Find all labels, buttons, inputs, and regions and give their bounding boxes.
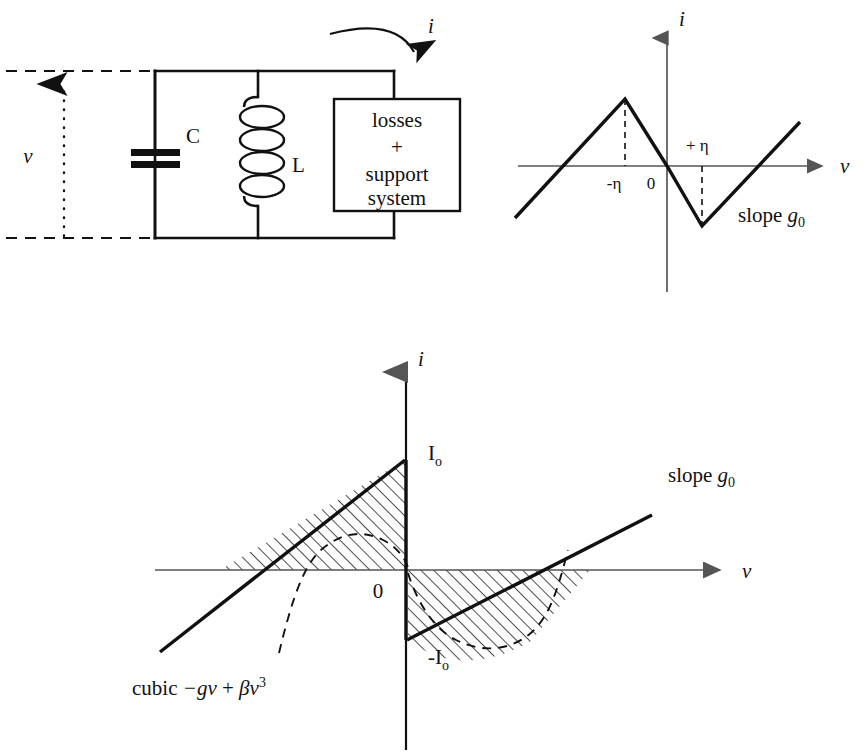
losses-box-line-1: losses xyxy=(372,108,422,132)
capacitor-plate-top xyxy=(131,149,180,156)
losses-box-line-2: + xyxy=(391,135,403,159)
losses-box-line-4: system xyxy=(368,186,426,210)
current-arrow xyxy=(330,28,414,52)
pwl-y-axis-label: i xyxy=(679,7,685,31)
figure-root: v C L losses + support system i xyxy=(0,0,866,755)
inductor-loop-3 xyxy=(240,152,284,174)
pwl-x-axis-label: v xyxy=(840,154,850,178)
cubic-peak-label: Io xyxy=(428,441,442,469)
pwl-origin-label: 0 xyxy=(647,174,656,193)
cubic-expression-exponent: 3 xyxy=(259,675,266,690)
cubic-expression-plus: + xyxy=(222,676,234,700)
inductor-label: L xyxy=(292,153,305,177)
inductor-loop-4 xyxy=(240,175,284,197)
cubic-peak-subscript: o xyxy=(435,454,442,469)
circuit-diagram-panel: v C L losses + support system i xyxy=(0,0,480,300)
cubic-expression-beta: β xyxy=(238,676,250,700)
cubic-expression-term-1: −g xyxy=(183,676,208,700)
losses-box-line-3: support xyxy=(366,162,429,186)
inductor-loop-2 xyxy=(240,129,284,151)
cubic-trough-symbol: -I xyxy=(428,645,442,669)
cubic-slope-word: slope xyxy=(668,463,712,487)
cubic-chart-panel: v i Io -Io 0 slope g0 cubic −gv + βv3 xyxy=(60,350,866,755)
pwl-slope-label: slope g0 xyxy=(738,203,805,230)
pwl-slope-word: slope xyxy=(738,203,782,227)
cubic-upper-left-hatched-region xyxy=(220,460,405,570)
capacitor-label: C xyxy=(186,124,200,148)
cubic-slope-symbol: g xyxy=(718,463,729,487)
cubic-slope-subscript: 0 xyxy=(728,475,735,490)
cubic-expression-label: cubic −gv + βv3 xyxy=(132,675,266,700)
current-label: i xyxy=(428,14,434,38)
inductor-loop-1 xyxy=(240,106,284,128)
voltage-label: v xyxy=(23,144,33,168)
cubic-trough-subscript: o xyxy=(442,658,449,673)
pwl-slope-symbol: g xyxy=(788,203,799,227)
pwl-neg-knee-label: -η xyxy=(607,174,622,193)
cubic-expression-word: cubic xyxy=(132,676,177,700)
pwl-pos-knee-label: + η xyxy=(686,136,709,155)
pwl-chart-panel: v i -η 0 + η slope g0 xyxy=(470,0,866,300)
cubic-x-axis-label: v xyxy=(742,559,752,583)
cubic-peak-symbol: I xyxy=(428,441,435,465)
cubic-y-axis-label: i xyxy=(418,350,424,371)
cubic-slope-label: slope g0 xyxy=(668,463,735,490)
pwl-slope-subscript: 0 xyxy=(798,215,805,230)
cubic-origin-label: 0 xyxy=(373,579,384,603)
